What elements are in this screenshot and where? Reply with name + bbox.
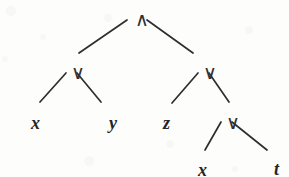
paper-speckle: [245, 26, 253, 34]
binary-expression-tree-figure: ∧∨∨xyz∨xt: [0, 0, 289, 177]
paper-speckle: [232, 166, 238, 172]
tree-edge-n0-n2: [147, 20, 193, 53]
tree-node-n8-t: t: [274, 160, 279, 177]
tree-node-n1-or: ∨: [71, 63, 85, 82]
tree-edge-n2-n5: [172, 73, 198, 103]
tree-node-n2-or: ∨: [203, 63, 217, 82]
tree-edge-n1-n3: [40, 73, 66, 102]
paper-speckle: [40, 34, 46, 40]
tree-node-n6-or: ∨: [226, 113, 240, 132]
paper-speckle: [6, 6, 16, 16]
paper-speckle: [2, 56, 8, 62]
tree-node-n0-and: ∧: [135, 10, 149, 29]
paper-speckle: [104, 14, 112, 22]
paper-speckle: [84, 156, 94, 166]
tree-node-n3-x: x: [31, 114, 40, 132]
tree-node-n7-x: x: [198, 161, 207, 177]
tree-edge-n6-n7: [205, 122, 221, 150]
tree-node-n4-y: y: [109, 114, 117, 132]
tree-edge-n0-n1: [79, 20, 127, 53]
paper-speckle: [166, 140, 174, 148]
tree-node-n5-z: z: [163, 114, 170, 132]
